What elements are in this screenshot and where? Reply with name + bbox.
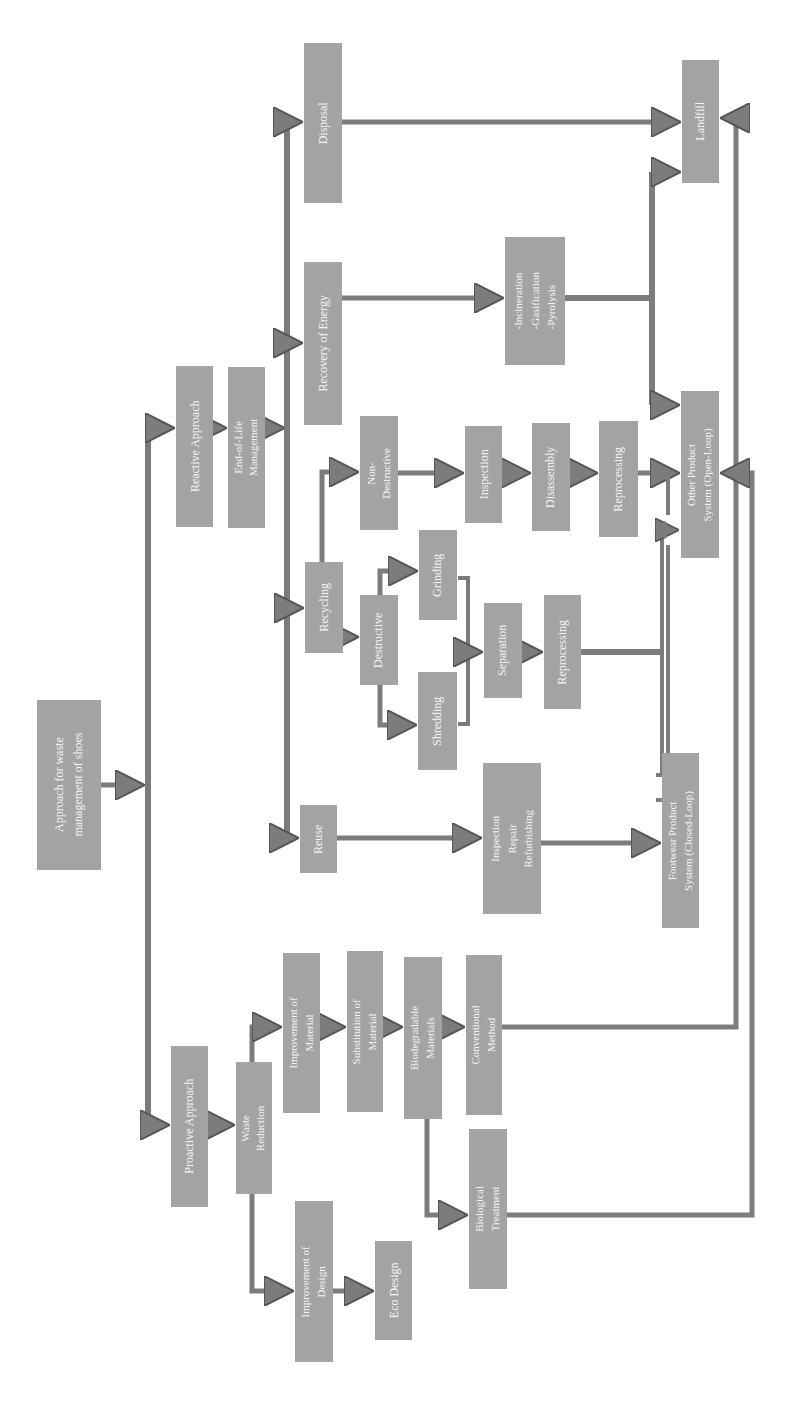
label-line: Destructive — [379, 448, 394, 499]
node-grinding-label: Grinding — [429, 553, 448, 596]
node-conventional-method: ConventionalMethod — [466, 955, 502, 1115]
node-reprocessing-non-destructive: Reprocessing — [599, 421, 638, 537]
node-recovery-of-energy: Recovery of Energy — [304, 262, 342, 425]
node-non-destructive-label: Non-Destructive — [364, 448, 395, 499]
node-reprocessing-nd-label: Reprocessing — [609, 447, 628, 512]
label-line: Recovery of Energy — [314, 295, 333, 391]
label-line: Approach for waste — [50, 733, 69, 837]
node-reactive-label: Reactive Approach — [185, 401, 204, 493]
node-reuse: Reuse — [300, 805, 337, 873]
node-closed-loop-label: Footwear ProductSystem (Closed-Loop) — [665, 791, 697, 891]
node-disposal: Disposal — [304, 43, 342, 203]
label-line: Reactive Approach — [185, 401, 204, 493]
label-line: Waste — [239, 1105, 254, 1150]
node-improve-material-label: Improvement ofMaterial — [286, 997, 318, 1068]
node-grinding: Grinding — [419, 530, 457, 620]
label-line: Materials — [423, 1006, 439, 1070]
label-line: Reduction — [254, 1105, 269, 1150]
node-improvement-of-design: Improvement ofDesign — [295, 1201, 333, 1362]
node-improve-design-label: Improvement ofDesign — [298, 1246, 330, 1317]
label-line: Treatment — [488, 1186, 504, 1232]
node-irr-label: InspectionRepairRefurbishing — [487, 810, 537, 867]
label-line: Disposal — [314, 102, 333, 144]
label-line: Shredding — [428, 696, 447, 745]
label-line: Reprocessing — [553, 620, 572, 685]
node-end-of-life-management: End-of-LifeManagement — [228, 367, 265, 528]
node-separation: Separation — [484, 603, 522, 698]
label-line: Proactive Approach — [180, 1079, 199, 1174]
label-line: Recycling — [315, 583, 334, 632]
node-disposal-label: Disposal — [314, 102, 333, 144]
label-line: Improvement of — [298, 1246, 314, 1317]
node-destructive: Destructive — [360, 595, 398, 685]
node-proactive-label: Proactive Approach — [180, 1079, 199, 1174]
label-line: Eco Design — [384, 1263, 403, 1319]
node-other-product-system-open-loop: Other ProductSystem (Open-Loop) — [681, 391, 719, 558]
node-eco-design: Eco Design — [375, 1241, 412, 1340]
node-reprocessing-recycling-label: Reprocessing — [553, 620, 572, 685]
node-conventional-label: ConventionalMethod — [468, 1005, 500, 1064]
label-line: management of shoes — [69, 733, 88, 837]
label-line: Improvement of — [286, 997, 302, 1068]
label-line: -Gasification — [527, 272, 544, 329]
node-destructive-label: Destructive — [370, 612, 389, 667]
node-recycling: Recycling — [305, 562, 343, 653]
node-separation-label: Separation — [494, 625, 513, 676]
node-waste-reduction-label: WasteReduction — [239, 1105, 270, 1150]
label-line: Conventional — [468, 1005, 484, 1064]
node-biological-label: BiologicalTreatment — [472, 1186, 504, 1232]
node-disassembly-label: Disassembly — [542, 446, 561, 507]
node-biodegradable-materials: BiodegradableMaterials — [404, 957, 442, 1119]
node-subst-material-label: Substitution ofMaterial — [349, 999, 381, 1064]
label-line: Disassembly — [542, 446, 561, 507]
label-line: Refurbishing — [520, 810, 537, 867]
node-incineration-gasification-pyrolysis: -Incineration-Gasification-Pyrolysis — [505, 237, 565, 365]
node-recycling-label: Recycling — [315, 583, 334, 632]
node-inspection: Inspection — [465, 426, 502, 523]
node-inspection-repair-refurbishing: InspectionRepairRefurbishing — [483, 763, 541, 914]
label-line: System (Closed-Loop) — [681, 791, 697, 891]
node-root-label: Approach for wastemanagement of shoes — [50, 733, 87, 837]
node-improvement-of-material: Improvement ofMaterial — [283, 953, 320, 1113]
label-line: Method — [484, 1005, 500, 1064]
label-line: Material — [365, 999, 381, 1064]
node-footwear-product-system-closed-loop: Footwear ProductSystem (Closed-Loop) — [662, 753, 699, 928]
node-recovery-label: Recovery of Energy — [314, 295, 333, 391]
label-line: Reuse — [309, 824, 328, 853]
label-line: Substitution of — [349, 999, 365, 1064]
node-shredding: Shredding — [418, 672, 457, 770]
label-line: Biological — [472, 1186, 488, 1232]
label-line: Separation — [494, 625, 513, 676]
label-line: End-of-Life — [231, 419, 246, 476]
label-line: Management — [247, 419, 262, 476]
label-line: Grinding — [429, 553, 448, 596]
node-reprocessing-recycling: Reprocessing — [544, 595, 581, 709]
node-eco-design-label: Eco Design — [384, 1263, 403, 1319]
node-proactive-approach: Proactive Approach — [171, 1046, 208, 1207]
node-landfill: Landfill — [682, 60, 719, 183]
label-line: Other Product — [684, 428, 700, 521]
node-eol-label: End-of-LifeManagement — [231, 419, 262, 476]
node-disassembly: Disassembly — [532, 423, 570, 531]
label-line: Destructive — [370, 612, 389, 667]
node-reuse-label: Reuse — [309, 824, 328, 853]
node-reactive-approach: Reactive Approach — [176, 366, 213, 527]
label-line: -Pyrolysis — [543, 272, 560, 329]
node-thermal-label: -Incineration-Gasification-Pyrolysis — [510, 272, 560, 329]
node-waste-reduction: WasteReduction — [236, 1062, 272, 1194]
connector-lines — [0, 0, 794, 1406]
node-shredding-label: Shredding — [428, 696, 447, 745]
node-inspection-label: Inspection — [474, 450, 493, 500]
node-biological-treatment: BiologicalTreatment — [469, 1129, 507, 1289]
label-line: System (Open-Loop) — [700, 428, 716, 521]
label-line: Repair — [504, 810, 521, 867]
label-line: Landfill — [691, 102, 710, 141]
label-line: Inspection — [474, 450, 493, 500]
node-open-loop-label: Other ProductSystem (Open-Loop) — [684, 428, 716, 521]
node-non-destructive: Non-Destructive — [360, 416, 398, 530]
node-root: Approach for wastemanagement of shoes — [37, 700, 101, 870]
node-landfill-label: Landfill — [691, 102, 710, 141]
node-biodegradable-label: BiodegradableMaterials — [407, 1006, 439, 1070]
node-substitution-of-material: Substitution ofMaterial — [347, 951, 383, 1112]
waste-management-flowchart: Approach for wastemanagement of shoes Re… — [0, 0, 794, 1406]
